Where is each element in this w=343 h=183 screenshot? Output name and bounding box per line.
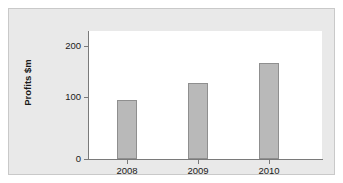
y-tick-mark-0 [84, 159, 88, 160]
y-tick-mark-200 [84, 46, 88, 47]
y-tick-label-200: 200 [65, 41, 81, 51]
chart-figure: 200 100 0 Profits $m 2008 2009 2010 [0, 0, 343, 183]
y-tick-label-0-wrap: 0 [49, 154, 81, 164]
x-tick-label-2009: 2009 [176, 165, 220, 176]
x-tick-label-2008: 2008 [105, 165, 149, 176]
y-tick-label-100: 100 [65, 92, 81, 102]
x-tick-mark-2010 [269, 160, 270, 164]
bar-2010 [259, 63, 279, 159]
x-tick-label-2010: 2010 [247, 165, 291, 176]
y-tick-mark-100 [84, 97, 88, 98]
y-tick-label-0: 0 [76, 154, 81, 164]
figure-panel: 200 100 0 Profits $m 2008 2009 2010 [8, 8, 335, 175]
y-tick-label-200-wrap: 200 [49, 41, 81, 51]
y-axis-line [88, 31, 89, 160]
x-axis-line [88, 159, 323, 160]
y-tick-label-100-wrap: 100 [49, 92, 81, 102]
bar-2008 [117, 100, 137, 159]
x-tick-mark-2008 [127, 160, 128, 164]
x-tick-mark-2009 [198, 160, 199, 164]
bar-2009 [188, 83, 208, 159]
y-axis-label: Profits $m [22, 43, 33, 123]
